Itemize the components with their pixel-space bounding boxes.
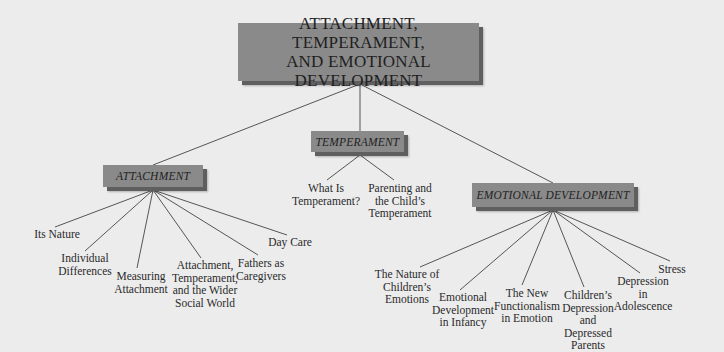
leaf-new-functionalism: The New Functionalism in Emotion	[494, 287, 560, 325]
leaf-emotional-development-infancy: Emotional Development in Infancy	[430, 291, 496, 329]
leaf-fathers-as-caregivers: Fathers as Caregivers	[236, 257, 286, 282]
branch-node-attachment: ATTACHMENT	[103, 165, 203, 187]
branch-label: ATTACHMENT	[116, 170, 190, 182]
leaf-what-is-temperament: What Is Temperament?	[290, 182, 362, 207]
leaf-its-nature: Its Nature	[22, 228, 92, 241]
leaf-measuring-attachment: Measuring Attachment	[108, 270, 174, 295]
leaf-parenting-and-temperament: Parenting and the Child’s Temperament	[364, 182, 436, 220]
leaf-day-care: Day Care	[265, 236, 315, 249]
branch-label: EMOTIONAL DEVELOPMENT	[476, 189, 629, 201]
leaf-depression-in-adolescence: Depression in Adolescence	[612, 275, 674, 313]
branch-node-emotional-development: EMOTIONAL DEVELOPMENT	[472, 183, 634, 207]
root-title: ATTACHMENT, TEMPERAMENT, AND EMOTIONAL D…	[238, 14, 479, 90]
branch-node-temperament: TEMPERAMENT	[311, 131, 404, 152]
branch-label: TEMPERAMENT	[316, 136, 400, 148]
root-node: ATTACHMENT, TEMPERAMENT, AND EMOTIONAL D…	[238, 23, 479, 81]
leaf-stress: Stress	[652, 263, 692, 276]
leaf-attachment-temperament-social-world: Attachment, Temperament, and the Wider S…	[172, 259, 238, 309]
